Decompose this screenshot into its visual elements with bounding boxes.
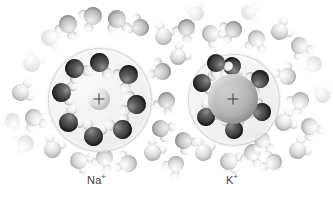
oxygen-atom (240, 4, 256, 20)
water-molecule (81, 4, 106, 29)
water-molecule (22, 106, 44, 128)
water-molecule (264, 152, 284, 172)
sodium-ion-core (88, 88, 110, 110)
water-molecule (285, 138, 309, 162)
water-molecule (50, 81, 72, 103)
water-molecule (81, 124, 104, 147)
water-molecule (41, 138, 64, 161)
water-molecule (2, 110, 21, 129)
positive-charge-icon (88, 88, 110, 110)
oxygen-atom (285, 138, 309, 162)
positive-charge-icon (208, 74, 258, 124)
water-molecule (165, 153, 188, 176)
potassium-label-charge: + (234, 172, 239, 181)
sodium-label-charge: + (101, 172, 106, 181)
sodium-label-symbol: Na (87, 174, 101, 186)
water-molecule (151, 60, 174, 83)
sodium-label: Na+ (87, 172, 106, 186)
oxygen-atom (171, 128, 195, 152)
water-molecule (154, 88, 177, 111)
water-molecule (222, 18, 244, 40)
water-molecule (140, 140, 164, 164)
water-molecule (10, 82, 31, 103)
water-molecule (128, 15, 151, 38)
water-molecule (117, 152, 139, 174)
oxygen-atom (305, 55, 322, 72)
water-molecule (193, 142, 214, 163)
water-molecule (152, 25, 174, 47)
water-molecule (313, 86, 330, 103)
oxygen-atom (165, 153, 188, 176)
water-molecule (124, 92, 147, 115)
water-molecule (240, 4, 256, 20)
water-molecule (246, 28, 266, 48)
water-molecule (275, 64, 299, 88)
potassium-label: K+ (226, 172, 238, 186)
water-molecule (14, 132, 36, 154)
water-molecule (305, 55, 322, 72)
water-molecule (171, 128, 195, 152)
water-molecule (19, 51, 42, 74)
potassium-ion-core (208, 74, 258, 124)
water-molecule (56, 12, 79, 35)
oxygen-atom (275, 64, 299, 88)
water-molecule (267, 19, 290, 42)
water-molecule (67, 149, 90, 172)
potassium-label-symbol: K (226, 174, 234, 186)
water-molecule (218, 151, 239, 172)
